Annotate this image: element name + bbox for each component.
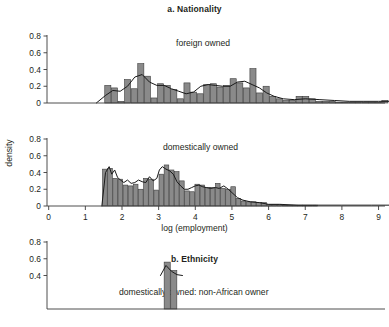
histogram-bar [169,170,174,206]
histogram-bar [210,188,215,206]
y-tick-label: 0.4 [29,65,41,75]
histogram-bar [151,98,157,103]
histogram-bar [164,165,169,206]
x-tick-label: 1 [83,212,88,222]
histogram-bar [171,90,177,103]
histogram-bar [263,86,269,103]
x-tick-label: 0 [46,212,51,222]
y-tick-label: 0.6 [29,151,41,161]
figure-histograms: a. Nationality b. Ethnicity foreign owne… [0,0,389,327]
histogram-bar [231,187,236,206]
histogram-bars [164,262,177,309]
y-tick-label: 0.6 [29,48,41,58]
y-tick-label: 0 [36,98,41,108]
histogram-bar [123,185,128,206]
histogram-bar [226,189,231,206]
histogram-bar [191,92,197,103]
x-tick-label: 3 [156,212,161,222]
y-tick-label: 0.8 [29,134,41,144]
histogram-bar [204,85,210,103]
histogram-bar [171,270,177,309]
histogram-bar [246,202,251,206]
y-tick-label: 0.4 [29,168,41,178]
histogram-bar [159,174,164,206]
histogram-bar [138,64,144,103]
x-tick-label: 4 [193,212,198,222]
histogram-bar [270,96,276,103]
histogram-bar [221,188,226,206]
y-tick-label: 0.6 [29,254,41,264]
x-tick-label: 2 [120,212,125,222]
histogram-bar [257,93,263,103]
histogram-bar [158,84,164,103]
y-tick-label: 0.2 [29,81,41,91]
x-tick-label: 7 [303,212,308,222]
x-tick-label: 6 [266,212,271,222]
histogram-bar [197,94,203,103]
histogram-bar [185,191,190,206]
histogram-bar [138,189,143,206]
histogram-bar [154,190,159,206]
histogram-bar [128,186,133,206]
histogram-bars [103,165,318,206]
histogram-bar [195,184,200,206]
histogram-bar [224,85,230,103]
y-tick-label: 0.8 [29,237,41,247]
x-tick-label: 9 [376,212,381,222]
histogram-bar [217,87,223,103]
x-tick-label: 8 [340,212,345,222]
histogram-bar [131,89,137,103]
histogram-bar [205,188,210,206]
histogram-bar [241,201,246,206]
histogram-bar [210,84,216,103]
histogram-bar [237,83,243,103]
plot-canvas: 00.20.40.60.800.20.40.60.801234567890.40… [0,0,389,327]
histogram-bars [105,64,388,103]
histogram-bar [243,88,249,103]
x-tick-label: 5 [230,212,235,222]
y-tick-label: 0.2 [29,184,41,194]
histogram-bar [303,96,309,103]
histogram-bar [133,184,138,206]
histogram-bar [177,99,183,103]
histogram-bar [236,198,241,206]
panel-bottom: 0.40.60.8 [29,237,385,309]
histogram-bar [190,192,195,206]
y-tick-label: 0.8 [29,31,41,41]
histogram-bar [215,183,220,206]
histogram-bar [149,179,154,206]
panel-top: 00.20.40.60.8 [29,31,389,108]
histogram-bar [200,185,205,206]
histogram-bar [230,79,236,103]
histogram-bar [276,99,282,103]
histogram-bar [180,181,185,206]
y-tick-label: 0.4 [29,271,41,281]
panel-middle: 00.20.40.60.80123456789 [29,134,389,222]
y-tick-label: 0 [36,201,41,211]
histogram-bar [113,178,118,206]
histogram-bar [118,179,123,206]
